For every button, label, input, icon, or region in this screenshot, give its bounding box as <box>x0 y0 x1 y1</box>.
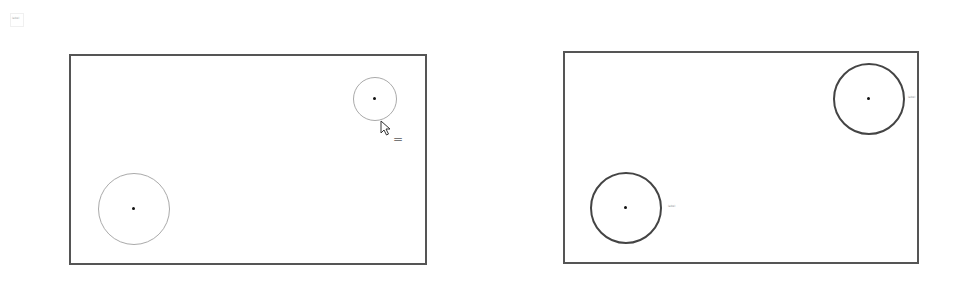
thumbnail-label: label <box>11 14 23 22</box>
center-point[interactable] <box>624 206 627 209</box>
center-point[interactable] <box>373 97 376 100</box>
cursor-arrow-icon <box>380 120 392 136</box>
center-point[interactable] <box>132 207 135 210</box>
document-thumbnail-icon[interactable]: label <box>10 13 24 27</box>
center-point[interactable] <box>867 97 870 100</box>
equal-constraint-icon: = <box>393 133 403 145</box>
dimension-label: label <box>908 96 915 99</box>
dimension-label: label <box>668 205 675 208</box>
